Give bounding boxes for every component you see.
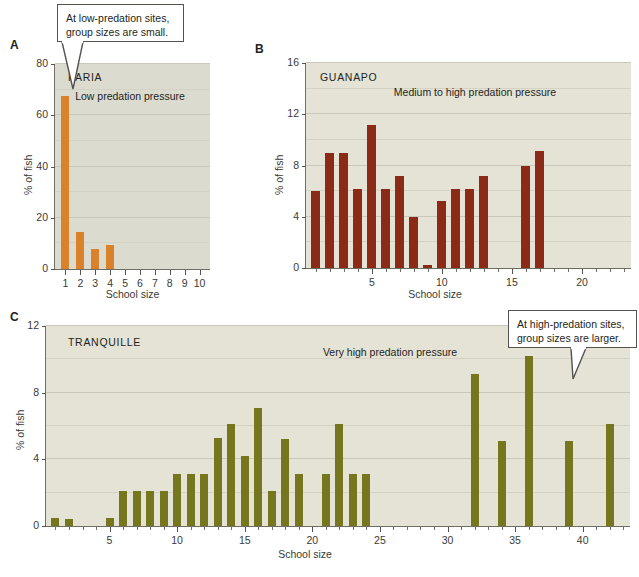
bar bbox=[106, 518, 114, 526]
y-tick-label: 60 bbox=[15, 108, 48, 120]
x-tick bbox=[623, 527, 624, 530]
panel-c-y-axis-label: % of fish bbox=[14, 410, 26, 450]
bar bbox=[479, 176, 488, 268]
y-tick bbox=[51, 167, 55, 168]
bar bbox=[311, 191, 320, 268]
x-tick bbox=[83, 527, 84, 530]
bar bbox=[200, 474, 208, 526]
x-tick bbox=[488, 527, 489, 530]
x-tick bbox=[583, 527, 584, 532]
x-tick bbox=[461, 527, 462, 530]
panel-a-pressure-note: Low predation pressure bbox=[75, 90, 185, 104]
panel-c-pressure-note: Very high predation pressure bbox=[300, 346, 480, 360]
bar bbox=[535, 151, 544, 268]
y-tick-label: 20 bbox=[15, 211, 48, 223]
x-tick bbox=[624, 269, 625, 272]
bar bbox=[498, 441, 506, 526]
bar bbox=[76, 232, 84, 269]
bar bbox=[471, 374, 479, 526]
y-tick bbox=[302, 114, 306, 115]
bar bbox=[437, 201, 446, 268]
x-tick bbox=[299, 527, 300, 530]
panel-b-letter: B bbox=[255, 42, 264, 56]
bar bbox=[362, 474, 370, 526]
bar bbox=[353, 189, 362, 268]
x-tick bbox=[448, 527, 449, 532]
bar bbox=[606, 424, 614, 526]
bar bbox=[227, 424, 235, 526]
x-tick bbox=[285, 527, 286, 530]
x-tick bbox=[542, 527, 543, 530]
panel-a-letter: A bbox=[10, 38, 19, 52]
y-tick bbox=[42, 393, 46, 394]
bar bbox=[146, 491, 154, 526]
x-tick bbox=[339, 527, 340, 530]
x-tick bbox=[95, 270, 96, 275]
x-tick bbox=[582, 269, 583, 274]
x-tick bbox=[80, 270, 81, 275]
x-tick bbox=[554, 269, 555, 272]
bar bbox=[61, 96, 69, 269]
bar bbox=[295, 474, 303, 526]
x-tick bbox=[484, 269, 485, 272]
y-tick bbox=[51, 64, 55, 65]
panel-c-site-name: TRANQUILLE bbox=[68, 336, 141, 348]
y-tick bbox=[42, 459, 46, 460]
y-tick bbox=[302, 63, 306, 64]
y-axis-line bbox=[45, 326, 46, 526]
x-tick bbox=[393, 527, 394, 530]
x-tick bbox=[185, 270, 186, 275]
bar bbox=[325, 153, 334, 268]
x-tick-label: 35 bbox=[500, 534, 530, 546]
x-tick bbox=[596, 269, 597, 272]
y-tick-label: 12 bbox=[6, 319, 39, 331]
x-tick bbox=[258, 527, 259, 530]
x-tick bbox=[569, 527, 570, 530]
x-tick bbox=[428, 269, 429, 272]
bar bbox=[339, 153, 348, 268]
x-tick bbox=[456, 269, 457, 272]
x-tick bbox=[140, 270, 141, 275]
x-tick-label: 5 bbox=[95, 534, 125, 546]
x-tick bbox=[610, 269, 611, 272]
bar bbox=[451, 189, 460, 268]
bar bbox=[65, 519, 73, 526]
x-tick bbox=[386, 269, 387, 272]
y-tick-label: 0 bbox=[266, 261, 299, 273]
x-tick bbox=[353, 527, 354, 530]
bar bbox=[335, 424, 343, 526]
bar bbox=[521, 166, 530, 269]
y-tick bbox=[42, 326, 46, 327]
y-tick bbox=[302, 217, 306, 218]
bar bbox=[268, 491, 276, 526]
x-tick bbox=[442, 269, 443, 274]
y-tick-label: 12 bbox=[266, 107, 299, 119]
x-tick bbox=[358, 269, 359, 272]
bar bbox=[214, 438, 222, 526]
y-tick-label: 8 bbox=[6, 386, 39, 398]
y-tick-label: 0 bbox=[15, 262, 48, 274]
bar bbox=[51, 518, 59, 526]
x-tick-label: 30 bbox=[433, 534, 463, 546]
bar bbox=[525, 356, 533, 526]
x-tick bbox=[204, 527, 205, 530]
bar bbox=[91, 249, 99, 270]
panel-a: A 020406080 12345678910 % of fish School… bbox=[0, 0, 225, 300]
bar bbox=[349, 474, 357, 526]
callout-high-predation-tail bbox=[540, 347, 590, 381]
y-tick-label: 16 bbox=[266, 56, 299, 68]
y-tick-label: 4 bbox=[6, 452, 39, 464]
x-tick bbox=[475, 527, 476, 530]
bar bbox=[106, 245, 114, 269]
x-tick bbox=[414, 269, 415, 272]
x-axis-line bbox=[55, 269, 210, 270]
x-tick bbox=[326, 527, 327, 530]
bar bbox=[254, 408, 262, 526]
x-tick-label: 25 bbox=[365, 534, 395, 546]
x-tick bbox=[110, 270, 111, 275]
x-tick bbox=[529, 527, 530, 530]
x-tick bbox=[540, 269, 541, 272]
x-tick bbox=[96, 527, 97, 530]
bar bbox=[367, 125, 376, 269]
x-tick bbox=[556, 527, 557, 530]
